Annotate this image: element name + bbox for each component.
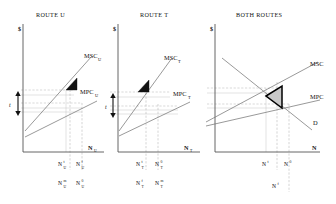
tick-sub-u-u1: U bbox=[64, 166, 67, 170]
tax-arrow-head-down-t bbox=[110, 113, 115, 118]
tax-arrow-head-up-u bbox=[15, 91, 20, 96]
tick-sup-u-l1: m bbox=[64, 179, 67, 183]
panel-route-u: ROUTE U $ MSC U bbox=[9, 11, 104, 189]
tick-sup-u-l2: 0 bbox=[82, 179, 84, 183]
tick-label-t-upper-1: N T t bbox=[136, 160, 145, 170]
panel-title-route-u: ROUTE U bbox=[36, 11, 65, 18]
tick-base-u-l2: N bbox=[76, 180, 80, 186]
tick-base-u-u1: N bbox=[58, 161, 62, 167]
x-axis-sub-route-u: U bbox=[94, 149, 97, 153]
x-axis-label-route-u: N bbox=[88, 144, 93, 151]
tax-label-route-t: t bbox=[105, 104, 107, 110]
curve-label-d-both-text: D bbox=[313, 119, 318, 126]
economics-figure: ROUTE U $ MSC U bbox=[0, 0, 336, 204]
tick-sub-t-u2: T bbox=[161, 166, 164, 170]
tick-sup-u-u1: t bbox=[64, 160, 65, 164]
curve-label-msc-u: MSC U bbox=[84, 52, 102, 62]
tick-sup-t-u1: t bbox=[142, 160, 143, 164]
tick-label-t-upper-2: N T 0 bbox=[155, 160, 164, 170]
tick-sup-b-u1: t bbox=[268, 160, 269, 164]
curve-label-msc-u-sub: U bbox=[98, 57, 102, 62]
curve-label-d-both: D bbox=[313, 119, 318, 126]
tick-base-u-l1: N bbox=[58, 180, 62, 186]
curve-label-msc-t-text: MSC bbox=[164, 54, 178, 61]
dwl-triangle-route-t bbox=[138, 80, 149, 92]
curve-mpc-t bbox=[119, 102, 190, 136]
curve-label-msc-t: MSC T bbox=[164, 54, 181, 64]
tick-base-t-u2: N bbox=[155, 161, 159, 167]
figure-canvas: ROUTE U $ MSC U bbox=[0, 0, 336, 204]
tick-label-b-upper-2: N 0 bbox=[284, 160, 292, 168]
tax-arrow-head-down-u bbox=[15, 111, 20, 116]
curve-label-mpc-t: MPC T bbox=[173, 90, 191, 100]
tick-sup-t-l1: f bbox=[142, 179, 144, 183]
x-axis-caption-both-routes: N bbox=[312, 144, 317, 151]
panel-title-both-routes: BOTH ROUTES bbox=[236, 11, 283, 18]
tick-sub-u-l2: U bbox=[82, 185, 85, 189]
dwl-triangle-route-u bbox=[66, 78, 77, 90]
curve-label-mpc-t-sub: T bbox=[188, 95, 191, 100]
tick-sup-b-l1: f bbox=[278, 182, 280, 186]
curve-label-msc-t-sub: T bbox=[178, 59, 181, 64]
tick-sub-t-l1: T bbox=[142, 185, 145, 189]
panel-route-t: ROUTE T $ MSC T M bbox=[105, 11, 200, 189]
tick-sub-t-l2: T bbox=[161, 185, 164, 189]
curve-label-msc-both: MSC bbox=[310, 60, 324, 67]
tick-base-t-l1: N bbox=[136, 180, 140, 186]
curve-label-mpc-both: MPC bbox=[310, 93, 324, 100]
tick-sup-t-u2: 0 bbox=[161, 160, 163, 164]
tick-base-b-u1: N bbox=[262, 161, 266, 167]
tick-label-b-lower-1: N f bbox=[272, 182, 280, 190]
tick-base-t-l2: N bbox=[155, 180, 159, 186]
tick-base-b-l1: N bbox=[272, 183, 276, 189]
curve-label-mpc-u-sub: U bbox=[95, 93, 99, 98]
tax-arrow-route-u: t bbox=[9, 91, 21, 116]
x-axis-label-route-t: N bbox=[184, 144, 189, 151]
curve-label-msc-u-text: MSC bbox=[84, 52, 98, 59]
tax-label-route-u: t bbox=[9, 102, 11, 108]
tick-label-u-lower-1: N U m bbox=[58, 179, 67, 189]
tick-sub-u-u2: U bbox=[82, 166, 85, 170]
tick-sub-u-l1: U bbox=[64, 185, 67, 189]
tick-base-u-u2: N bbox=[76, 161, 80, 167]
panel-title-route-t: ROUTE T bbox=[140, 11, 168, 18]
tick-label-u-upper-2: N U f bbox=[76, 160, 85, 170]
tick-label-t-lower-2: N T m bbox=[155, 179, 164, 189]
curve-label-mpc-both-text: MPC bbox=[310, 93, 324, 100]
curve-label-mpc-u-text: MPC bbox=[80, 88, 94, 95]
tick-sub-t-u1: T bbox=[142, 166, 145, 170]
y-axis-label-route-t: $ bbox=[113, 25, 116, 32]
tick-label-u-lower-2: N U 0 bbox=[76, 179, 85, 189]
dwl-triangle-both-routes bbox=[266, 86, 282, 108]
x-axis-label-both-routes: N bbox=[312, 144, 317, 151]
tick-label-u-upper-1: N U t bbox=[58, 160, 67, 170]
curve-label-mpc-u: MPC U bbox=[80, 88, 99, 98]
tick-sup-u-u2: f bbox=[82, 160, 84, 164]
tick-label-t-lower-1: N T f bbox=[136, 179, 145, 189]
curve-label-mpc-t-text: MPC bbox=[173, 90, 187, 97]
tax-arrow-head-up-t bbox=[110, 93, 115, 98]
tick-sup-b-u2: 0 bbox=[290, 160, 292, 164]
y-axis-label-route-u: $ bbox=[18, 25, 21, 32]
panel-both-routes: BOTH ROUTES $ MSC bbox=[206, 11, 324, 192]
tick-label-b-upper-1: N t bbox=[262, 160, 269, 168]
curve-msc-t bbox=[119, 58, 172, 131]
curve-label-msc-both-text: MSC bbox=[310, 60, 324, 67]
tick-base-b-u2: N bbox=[284, 161, 288, 167]
tick-base-t-u1: N bbox=[136, 161, 140, 167]
tick-sup-t-l2: m bbox=[161, 179, 164, 183]
y-axis-label-both-routes: $ bbox=[210, 25, 213, 32]
